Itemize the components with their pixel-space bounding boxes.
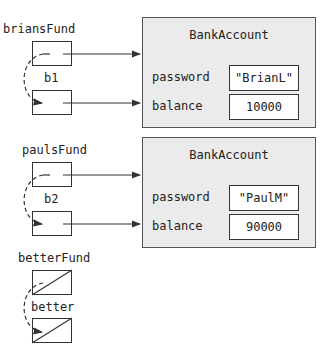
- dashed-arc-1: [24, 54, 43, 103]
- reference-arrows: [0, 0, 333, 363]
- dashed-arc-2: [24, 175, 43, 224]
- null-slash-betterfund: [32, 270, 72, 295]
- null-slash-better: [32, 318, 72, 343]
